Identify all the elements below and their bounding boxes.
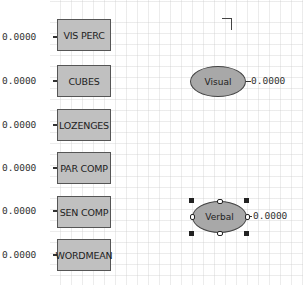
lozenges-value: 0.0000: [2, 119, 36, 130]
observed-wordmean[interactable]: WORDMEAN: [57, 239, 111, 271]
visual-value: 0.0000: [251, 75, 285, 86]
cubes-value: 0.0000: [2, 75, 36, 86]
observed-sen-comp[interactable]: SEN COMP: [57, 196, 111, 228]
observed-vis-perc[interactable]: VIS PERC: [57, 19, 111, 51]
observed-cubes[interactable]: CUBES: [57, 65, 111, 97]
wordmean-value: 0.0000: [2, 249, 36, 260]
verbal-value: 0.0000: [253, 210, 287, 221]
par-comp-value: 0.0000: [2, 162, 36, 173]
latent-verbal[interactable]: Verbal: [192, 201, 247, 233]
vis-perc-value: 0.0000: [2, 31, 36, 42]
observed-lozenges[interactable]: LOZENGES: [57, 109, 111, 141]
latent-visual[interactable]: Visual: [190, 66, 246, 97]
selection-handle-w[interactable]: [190, 214, 195, 220]
selection-handle-ne[interactable]: [244, 198, 249, 203]
selection-handle-se[interactable]: [244, 231, 249, 236]
selection-handle-e[interactable]: [245, 214, 250, 220]
selection-handle-nw[interactable]: [189, 198, 194, 203]
observed-par-comp[interactable]: PAR COMP: [57, 152, 111, 184]
page-corner-marker: [222, 18, 232, 30]
canvas-margin: [0, 0, 50, 285]
sen-comp-value: 0.0000: [2, 205, 36, 216]
selection-handle-n[interactable]: [217, 199, 223, 204]
selection-handle-sw[interactable]: [189, 231, 194, 236]
selection-handle-s[interactable]: [217, 231, 223, 236]
